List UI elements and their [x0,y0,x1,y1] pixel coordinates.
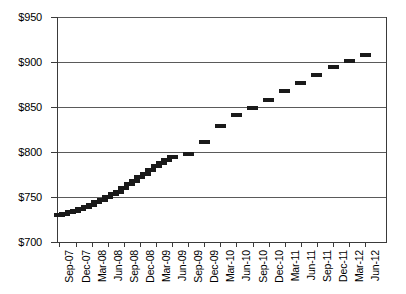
y-tick-mark [51,152,58,153]
x-tick-mark [220,242,221,247]
x-tick-mark [253,242,254,247]
data-point-marker [129,179,140,183]
x-tick-label: Dec-11 [337,250,349,282]
x-tick-mark [156,242,157,247]
x-tick-label: Jun-09 [176,250,188,281]
x-tick-label: Jun-08 [112,250,124,281]
x-tick-mark [204,242,205,247]
x-tick-mark [365,242,366,247]
data-point-marker [199,140,210,144]
y-tick-label: $900 [18,56,42,68]
data-point-marker [247,106,258,110]
x-tick-label: Mar-11 [289,250,301,281]
x-tick-mark [172,242,173,247]
data-point-marker [140,172,151,176]
x-tick-mark [349,242,350,247]
data-point-marker [118,186,129,190]
y-tick-mark [51,62,58,63]
x-tick-label: Sep-11 [321,250,333,282]
x-tick-mark [188,242,189,247]
gridline [58,62,386,63]
data-point-marker [344,59,355,63]
y-tick-label: $750 [18,191,42,203]
x-tick-label: Mar-08 [96,250,108,282]
x-tick-mark [92,242,93,247]
data-point-marker [134,175,145,179]
x-tick-label: Dec-07 [80,250,92,283]
data-point-marker [145,168,156,172]
y-axis: $950$900$850$800$750$700 [0,0,52,294]
x-tick-mark [124,242,125,247]
data-point-marker [360,53,371,57]
x-tick-label: Jun-11 [305,250,317,280]
data-point-marker [311,73,322,77]
x-tick-label: Dec-10 [273,250,285,283]
x-tick-mark [269,242,270,247]
y-tick-mark [51,197,58,198]
y-tick-label: $950 [18,11,42,23]
x-tick-mark [59,242,60,247]
y-tick-mark [51,242,58,243]
gridline [58,152,386,153]
x-tick-label: Jun-10 [240,250,252,281]
x-tick-label: Sep-07 [63,250,75,283]
y-tick-mark [51,17,58,18]
x-tick-mark [301,242,302,247]
y-tick-mark [51,107,58,108]
data-point-marker [167,155,178,159]
chart-container: $950$900$850$800$750$700 Sep-07Dec-07Mar… [0,0,406,294]
x-tick-label: Sep-08 [128,250,140,283]
x-tick-label: Mar-12 [353,250,365,282]
x-axis-line [57,242,387,243]
data-point-marker [124,182,135,186]
data-point-marker [231,113,242,117]
data-point-marker [295,81,306,85]
data-point-marker [151,164,162,168]
x-tick-label: Sep-10 [257,250,269,283]
x-tick-label: Dec-08 [144,250,156,283]
data-point-marker [113,190,124,194]
y-tick-label: $800 [18,146,42,158]
x-tick-mark [236,242,237,247]
x-tick-mark [285,242,286,247]
gridline [58,107,386,108]
x-tick-label: Sep-09 [192,250,204,283]
x-tick-label: Dec-09 [208,250,220,283]
y-tick-label: $700 [18,236,42,248]
x-tick-mark [108,242,109,247]
x-tick-label: Mar-10 [224,250,236,282]
x-tick-mark [333,242,334,247]
plot-area [57,17,387,242]
x-tick-mark [317,242,318,247]
y-tick-label: $850 [18,101,42,113]
data-point-marker [183,152,194,156]
x-tick-label: Mar-09 [160,250,172,282]
x-tick-mark [140,242,141,247]
data-point-marker [215,124,226,128]
data-point-marker [328,65,339,69]
gridline [58,17,386,18]
x-tick-label: Jun-12 [369,250,381,281]
data-point-marker [263,98,274,102]
x-tick-mark [76,242,77,247]
data-point-marker [279,89,290,93]
